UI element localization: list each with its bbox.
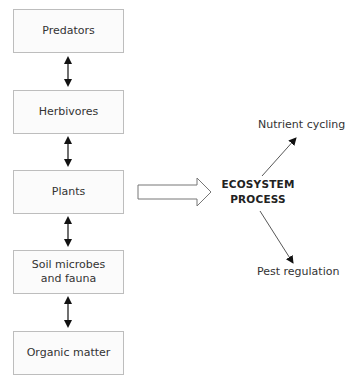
box-herbivores: Herbivores bbox=[13, 90, 124, 134]
double-arrow-icon bbox=[64, 296, 72, 328]
double-arrow-icon bbox=[64, 136, 72, 167]
box-plants: Plants bbox=[13, 170, 124, 214]
box-label: Plants bbox=[52, 185, 85, 199]
box-predators: Predators bbox=[13, 9, 124, 53]
double-arrow-icon bbox=[64, 56, 72, 87]
box-label: Organic matter bbox=[27, 346, 111, 360]
center-line1: ECOSYSTEM bbox=[218, 177, 298, 192]
box-organic-matter: Organic matter bbox=[13, 331, 124, 375]
ecosystem-process-label: ECOSYSTEM PROCESS bbox=[218, 177, 298, 207]
center-line2: PROCESS bbox=[218, 192, 298, 207]
box-label-line2: and fauna bbox=[41, 272, 97, 286]
block-arrow-icon bbox=[138, 178, 211, 206]
output-nutrient-cycling: Nutrient cycling bbox=[258, 118, 345, 131]
output-pest-regulation: Pest regulation bbox=[257, 265, 339, 278]
double-arrow-icon bbox=[64, 216, 72, 247]
box-soil-microbes: Soil microbes and fauna bbox=[13, 250, 124, 294]
arrow-to-nutrient-cycling-icon bbox=[262, 138, 296, 176]
box-label: Herbivores bbox=[39, 105, 99, 119]
box-label-line1: Soil microbes bbox=[32, 258, 106, 272]
arrow-to-pest-regulation-icon bbox=[260, 211, 293, 263]
box-label: Predators bbox=[42, 24, 95, 38]
